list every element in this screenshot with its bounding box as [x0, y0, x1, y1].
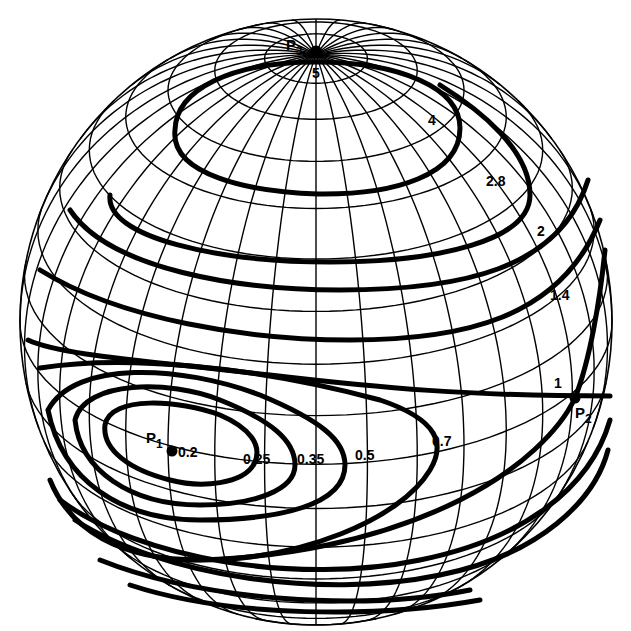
contour-label-0.35: 0.35 [297, 451, 324, 467]
point-marker-icon [311, 47, 322, 58]
contour-label-1: 1 [554, 375, 562, 391]
contour-label-4: 4 [428, 112, 436, 128]
meridian-line [316, 55, 608, 429]
contour-4 [175, 62, 460, 194]
contour-label-5: 5 [312, 65, 320, 81]
lat-long-grid [20, 19, 612, 625]
point-marker-icon [167, 446, 178, 457]
contour-label-0.2: 0.2 [178, 444, 198, 460]
point-marker-icon [570, 393, 581, 404]
contour-label-0.5: 0.5 [355, 447, 375, 463]
contour-2.8 [110, 85, 530, 262]
contour-label-2.8: 2.8 [486, 173, 506, 189]
contour-label-2: 2 [537, 223, 545, 239]
contour-label-0.7: 0.7 [432, 433, 452, 449]
contour-label-0.25: 0.25 [243, 451, 270, 467]
contour-label-1.4: 1.4 [550, 287, 570, 303]
sphere-contour-diagram: P1P2P3 0.20.250.350.50.711.422.845 [0, 0, 631, 631]
point-label: P2 [575, 404, 592, 426]
sphere-svg: P1P2P3 0.20.250.350.50.711.422.845 [0, 0, 631, 631]
meridian-line [316, 55, 543, 586]
point-p1: P1 [146, 429, 178, 457]
point-label: P1 [146, 429, 163, 451]
contour-1.4 [40, 220, 600, 340]
